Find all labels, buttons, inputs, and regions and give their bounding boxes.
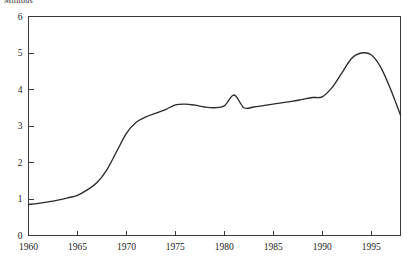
y-axis-tick-labels: 0123456 (18, 12, 23, 241)
plot-frame (29, 17, 401, 236)
y-tick-label-4: 4 (18, 85, 23, 95)
y-tick-label-0: 0 (18, 231, 23, 241)
y-axis-ticks (29, 17, 34, 236)
x-tick-label-1960: 1960 (19, 242, 38, 252)
y-tick-label-2: 2 (18, 158, 23, 168)
x-tick-label-1975: 1975 (166, 242, 185, 252)
x-axis-tick-labels: 19601965197019751980198519901995 (19, 242, 381, 252)
x-tick-label-1985: 1985 (264, 242, 283, 252)
line-chart-plot: 0123456 19601965197019751980198519901995 (0, 0, 413, 262)
plot-border (29, 17, 401, 236)
x-tick-label-1990: 1990 (313, 242, 332, 252)
chart-root: Millions 0123456 19601965197019751980198… (0, 0, 413, 262)
data-series-group (29, 53, 401, 205)
y-tick-label-5: 5 (18, 48, 23, 58)
data-series-value (29, 53, 401, 205)
y-tick-label-6: 6 (18, 12, 23, 22)
y-tick-label-1: 1 (18, 194, 23, 204)
x-axis-ticks (29, 231, 372, 236)
x-tick-label-1970: 1970 (117, 242, 136, 252)
x-tick-label-1965: 1965 (68, 242, 87, 252)
y-tick-label-3: 3 (18, 121, 23, 131)
x-tick-label-1980: 1980 (215, 242, 234, 252)
x-tick-label-1995: 1995 (362, 242, 381, 252)
